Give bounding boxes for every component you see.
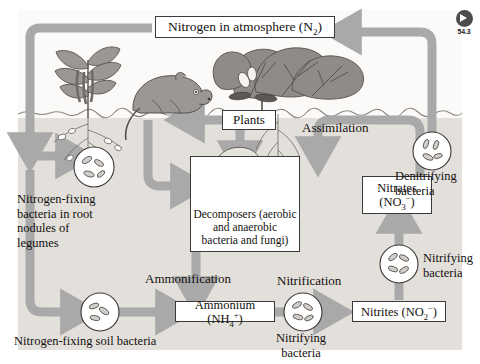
nitrogen-cycle-figure: Nitrogen in atmosphere (N2) Plants Decom… — [0, 0, 480, 364]
nitrogen-in-atmosphere-box[interactable]: Nitrogen in atmosphere (N2) — [155, 16, 335, 38]
microbe-circle-nitrifying-right — [380, 245, 418, 283]
nitrites-label: Nitrites (NO2−) — [361, 305, 437, 319]
root-nodule-bacteria-label: Nitrogen-fixing bacteria in root nodules… — [17, 192, 95, 250]
circle-arrow-right-icon — [456, 10, 473, 27]
microbe-circle-denitrifying — [413, 132, 451, 170]
assimilation-label: Assimilation — [302, 120, 368, 135]
plants-label: Plants — [233, 113, 265, 128]
decomposers-line-3: bacteria and fungi) — [202, 234, 289, 247]
microbe-circle-soil-bacteria — [81, 293, 119, 331]
decomposers-line-2: and anaerobic — [213, 221, 277, 234]
decomposers-box[interactable]: Decomposers (aerobic and anaerobic bacte… — [190, 156, 300, 252]
soil-bacteria-label: Nitrogen-fixing soil bacteria — [14, 334, 156, 349]
figure-badge[interactable]: 54.3 — [452, 10, 476, 35]
nitrogen-in-atmosphere-label: Nitrogen in atmosphere (N2) — [168, 19, 322, 34]
nitrites-box[interactable]: Nitrites (NO2−) — [352, 301, 446, 322]
nitrifying-bacteria-bottom-label: Nitrifying bacteria — [276, 331, 326, 360]
microbe-circle-root-nodule — [74, 147, 114, 187]
ammonification-label: Ammonification — [145, 271, 231, 286]
plants-box[interactable]: Plants — [222, 110, 276, 130]
nitrifying-bacteria-right-label: Nitrifying bacteria — [423, 251, 473, 280]
figure-number: 54.3 — [452, 28, 476, 35]
denitrifying-bacteria-label: Denitrifying bacteria — [395, 169, 457, 198]
microbe-circle-nitrifying-bottom — [284, 293, 322, 331]
decomposers-line-1: Decomposers (aerobic — [193, 208, 296, 221]
nitrification-label: Nitrification — [277, 273, 341, 288]
ammonium-box[interactable]: Ammonium (NH4+) — [175, 301, 275, 322]
ammonium-label: Ammonium (NH4+) — [176, 298, 274, 326]
